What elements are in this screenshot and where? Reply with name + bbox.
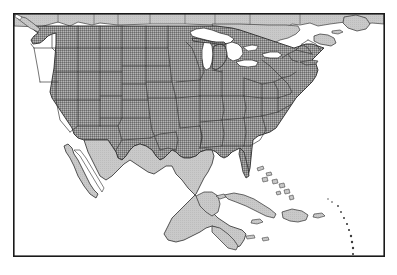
map-canvas: [0, 0, 397, 275]
lake-ontario: [262, 52, 282, 58]
map-screenshot-root: Map of North America with contiguous Uni…: [0, 0, 397, 275]
north-america-map-figure: [0, 0, 397, 275]
